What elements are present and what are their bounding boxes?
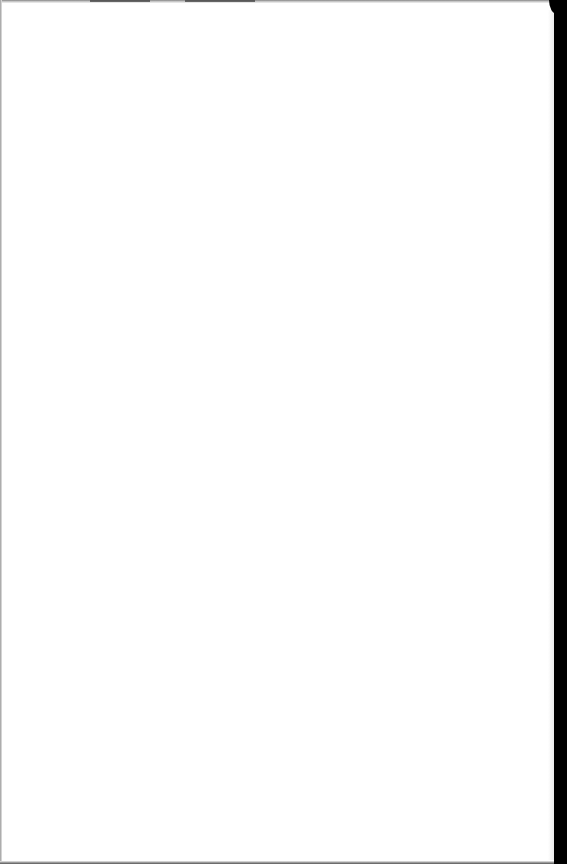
top-paper-edge <box>0 0 555 3</box>
left-paper-edge <box>0 0 2 864</box>
top-edge-shadow-segment <box>185 0 255 2</box>
top-edge-shadow-segment <box>90 0 150 2</box>
page-description: Blank scanned page <box>2 3 3 4</box>
blank-page-body: Blank scanned page <box>2 3 552 861</box>
scanned-page: Blank scanned page <box>0 0 567 864</box>
right-scan-border <box>554 0 567 864</box>
